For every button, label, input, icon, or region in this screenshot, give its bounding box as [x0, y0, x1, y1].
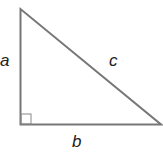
triangle — [21, 9, 162, 125]
right-angle-marker — [21, 114, 31, 124]
right-triangle-diagram: a c b — [0, 0, 163, 155]
side-c-label: c — [109, 51, 118, 70]
side-a-label: a — [0, 51, 9, 70]
side-b-label: b — [72, 132, 81, 151]
